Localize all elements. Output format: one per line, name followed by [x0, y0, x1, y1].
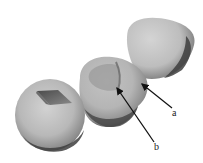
- annotation-label-a: a: [172, 108, 176, 118]
- arrow-a: [142, 84, 172, 108]
- annotation-label-b: b: [154, 142, 159, 152]
- left-specimen: [15, 79, 85, 152]
- middle-specimen: [79, 57, 147, 127]
- specimen-figure: a b: [0, 0, 203, 163]
